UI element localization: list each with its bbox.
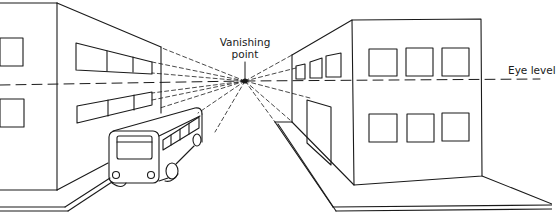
right-sidewalk xyxy=(275,122,552,211)
vanishing-point-label-line1: Vanishing xyxy=(212,36,278,48)
bus xyxy=(109,108,202,187)
eye-level-label: Eye level xyxy=(508,64,556,76)
vanishing-point-label: Vanishing point xyxy=(212,36,278,60)
left-sidewalk xyxy=(0,178,112,211)
vanishing-point-label-line2: point xyxy=(212,48,278,60)
perspective-guide-lines xyxy=(152,48,310,132)
left-building xyxy=(0,3,161,190)
eye-level-line xyxy=(0,79,540,85)
right-building xyxy=(292,19,482,185)
vanishing-point xyxy=(242,62,247,84)
